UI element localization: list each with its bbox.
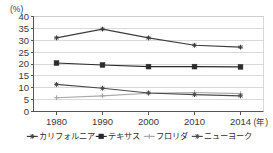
x-axis-unit-label: (年): [254, 117, 269, 127]
series-0-point-1-marker-cross: [100, 27, 105, 32]
y-tick-label-10: 10: [18, 82, 29, 93]
legend-item-3[interactable]: ニューヨーク: [192, 132, 253, 141]
legend-item-0[interactable]: カリフォルニア: [27, 132, 96, 141]
series-0-point-4-marker-cross: [238, 45, 243, 50]
line-chart: 0510152025303540 19801990200020102014 (%…: [0, 0, 273, 153]
x-axis-ticks: 19801990200020102014: [46, 112, 251, 127]
x-tick-label-1990: 1990: [92, 116, 113, 127]
chart-legend: カリフォルニアテキサスフロリダニューヨーク: [27, 131, 253, 141]
series-1-point-1-marker-square: [100, 63, 105, 68]
y-tick-label-25: 25: [18, 47, 29, 58]
series-1-point-0-marker-square: [54, 61, 59, 66]
series-0-point-3-marker-cross: [192, 43, 197, 48]
y-axis-ticks: 0510152025303540: [18, 11, 33, 117]
legend-label-1: テキサス: [108, 132, 140, 141]
y-tick-label-0: 0: [24, 106, 29, 117]
series-3-point-2-marker-cross: [146, 91, 151, 96]
y-tick-label-30: 30: [18, 35, 29, 46]
legend-3-marker-cross: [195, 134, 200, 139]
series-3-point-1-marker-cross: [100, 86, 105, 91]
x-tick-label-2010: 2010: [184, 116, 205, 127]
series-0-point-0-marker-cross: [54, 35, 59, 40]
x-tick-label-2000: 2000: [138, 116, 159, 127]
series-3-point-0-marker-cross: [54, 82, 59, 87]
y-tick-label-35: 35: [18, 23, 29, 34]
y-axis-unit-label: (%): [10, 4, 23, 14]
y-tick-label-15: 15: [18, 70, 29, 81]
x-tick-label-2014: 2014: [230, 116, 251, 127]
series-1-point-2-marker-square: [146, 64, 151, 69]
series-0: [54, 27, 243, 50]
chart-figure: 0510152025303540 19801990200020102014 (%…: [0, 0, 273, 153]
series-2-point-1-marker-plus: [100, 93, 105, 98]
legend-1-marker-square: [99, 134, 104, 139]
data-series: [54, 27, 243, 100]
grid-lines: [34, 17, 264, 100]
series-3-point-3-marker-cross: [192, 92, 197, 97]
legend-label-2: フロリダ: [156, 131, 188, 141]
y-tick-label-5: 5: [24, 94, 29, 105]
y-tick-label-20: 20: [18, 58, 29, 69]
legend-item-1[interactable]: テキサス: [96, 132, 141, 141]
legend-label-3: ニューヨーク: [204, 132, 252, 141]
legend-2-marker-plus: [147, 134, 152, 139]
series-1-point-4-marker-square: [238, 64, 243, 69]
series-1: [54, 61, 243, 70]
series-1-point-3-marker-square: [192, 64, 197, 69]
legend-0-marker-cross: [30, 134, 35, 139]
series-3-point-4-marker-cross: [238, 93, 243, 98]
legend-item-2[interactable]: フロリダ: [144, 131, 189, 141]
series-0-point-2-marker-cross: [146, 35, 151, 40]
series-3: [54, 82, 243, 98]
x-tick-label-1980: 1980: [46, 116, 67, 127]
legend-label-0: カリフォルニア: [39, 132, 95, 141]
